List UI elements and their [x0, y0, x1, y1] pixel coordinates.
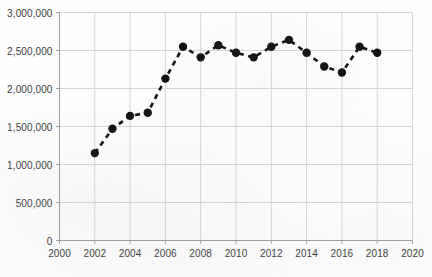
y-tick-label: 0 [47, 235, 53, 246]
data-point-marker [232, 49, 240, 57]
x-tick-label: 2008 [189, 248, 212, 259]
y-tick-label: 1,500,000 [7, 121, 52, 132]
data-point-marker [126, 112, 134, 120]
y-tick-label: 1,000,000 [7, 159, 52, 170]
x-tick-label: 2002 [83, 248, 106, 259]
data-point-marker [144, 109, 152, 117]
x-tick-label: 2020 [401, 248, 424, 259]
data-point-marker [179, 43, 187, 51]
y-tick-label: 3,000,000 [7, 7, 52, 18]
chart-container: 0500,0001,000,0001,500,0002,000,0002,500… [0, 0, 432, 277]
data-point-marker [373, 49, 381, 57]
x-tick-label: 2014 [295, 248, 318, 259]
data-point-marker [214, 41, 222, 49]
y-tick-label: 2,500,000 [7, 45, 52, 56]
data-point-marker [320, 62, 328, 70]
data-point-marker [249, 53, 257, 61]
x-tick-label: 2010 [225, 248, 248, 259]
data-point-marker [267, 43, 275, 51]
x-tick-label: 2004 [119, 248, 142, 259]
data-point-marker [355, 43, 363, 51]
data-point-marker [197, 53, 205, 61]
x-tick-label: 2018 [366, 248, 389, 259]
y-tick-label: 2,000,000 [7, 83, 52, 94]
y-tick-label: 500,000 [16, 197, 53, 208]
data-point-marker [161, 74, 169, 82]
data-point-marker [108, 125, 116, 133]
x-tick-label: 2016 [331, 248, 354, 259]
line-chart-plot [0, 0, 432, 277]
x-tick-label: 2000 [48, 248, 71, 259]
data-point-marker [91, 149, 99, 157]
data-point-marker [285, 36, 293, 44]
data-point-marker [338, 68, 346, 76]
x-tick-label: 2006 [154, 248, 177, 259]
data-point-marker [302, 49, 310, 57]
x-tick-label: 2012 [260, 248, 283, 259]
